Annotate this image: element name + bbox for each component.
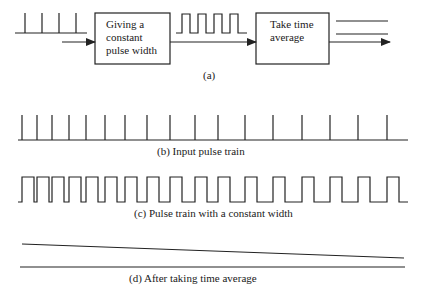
input-spikes-mini (15, 13, 87, 33)
constant-width-pulse-waveform (18, 177, 408, 202)
caption-b: (b) Input pulse train (157, 145, 245, 158)
panel-b-input-pulse-train (18, 115, 408, 140)
average-signal-line (22, 244, 404, 258)
panel-d-time-average (20, 244, 405, 267)
caption-d: (d) After taking time average (129, 272, 257, 285)
box2-text: Take time average (270, 18, 316, 43)
box1-text: Giving a constant pulse width (106, 18, 158, 56)
pulse-width-diagram: Giving a constant pulse width Take time … (0, 0, 423, 290)
constant-pulses-mini (176, 14, 247, 33)
caption-c: (c) Pulse train with a constant width (134, 207, 293, 220)
panel-c-constant-width-train (18, 177, 408, 202)
average-lines-mini (336, 21, 388, 34)
panel-a-block-diagram (15, 13, 390, 64)
caption-a: (a) (203, 69, 216, 82)
